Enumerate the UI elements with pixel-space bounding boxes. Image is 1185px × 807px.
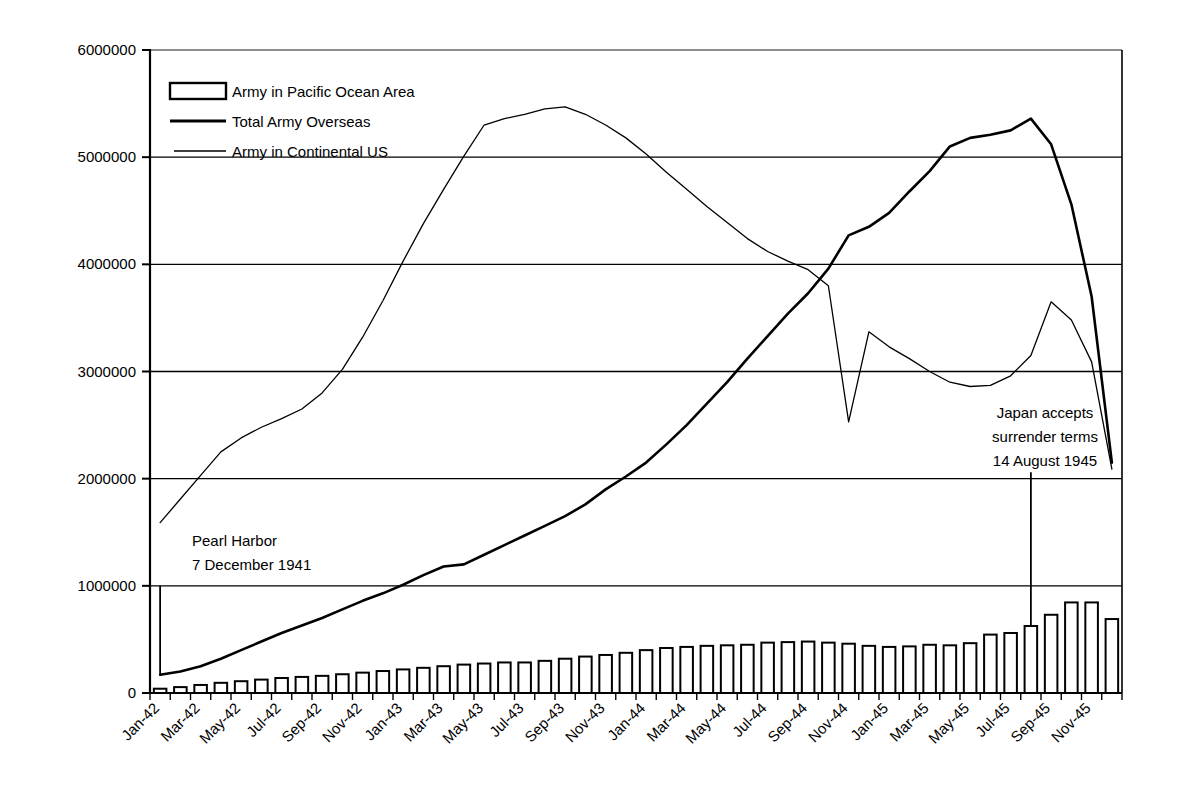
legend-item-label: Army in Pacific Ocean Area xyxy=(232,83,415,100)
bar xyxy=(923,645,936,693)
bar xyxy=(397,669,410,693)
bar xyxy=(640,650,653,693)
bar xyxy=(964,643,977,693)
y-tick-label: 3000000 xyxy=(78,363,136,380)
bar xyxy=(701,646,714,693)
bar xyxy=(539,661,552,693)
bar xyxy=(761,643,774,693)
bar xyxy=(559,659,572,693)
bar xyxy=(579,657,592,693)
bar xyxy=(660,648,673,693)
bar xyxy=(863,646,876,693)
bar xyxy=(903,646,916,693)
bar xyxy=(336,674,349,693)
bar xyxy=(194,685,207,693)
bar xyxy=(1045,615,1058,693)
bar xyxy=(680,647,693,693)
bar xyxy=(498,662,511,693)
bar xyxy=(417,668,430,693)
bar xyxy=(377,671,390,693)
bar xyxy=(1085,602,1098,693)
bar xyxy=(822,643,835,693)
legend-swatch-bar xyxy=(170,83,226,99)
bar xyxy=(802,642,815,693)
bar xyxy=(599,655,612,693)
bar xyxy=(235,681,248,693)
bar xyxy=(1004,633,1017,693)
legend-item-label: Army in Continental US xyxy=(232,143,388,160)
y-tick-label: 2000000 xyxy=(78,470,136,487)
bar xyxy=(883,647,896,693)
chart-container: 0100000020000003000000400000050000006000… xyxy=(0,0,1185,807)
y-tick-label: 0 xyxy=(128,684,136,701)
bar xyxy=(1025,626,1038,693)
japan-surrender-annotation-line: Japan accepts xyxy=(997,404,1094,421)
bar xyxy=(741,645,754,693)
bar xyxy=(782,642,795,693)
japan-surrender-annotation-line: 14 August 1945 xyxy=(993,452,1097,469)
bar xyxy=(296,677,309,693)
bar xyxy=(356,673,369,693)
y-tick-label: 4000000 xyxy=(78,255,136,272)
bar xyxy=(842,644,855,693)
bar xyxy=(316,676,329,693)
bar xyxy=(1106,619,1119,693)
y-tick-label: 1000000 xyxy=(78,577,136,594)
japan-surrender-annotation-line: surrender terms xyxy=(992,428,1098,445)
legend-item-label: Total Army Overseas xyxy=(232,113,370,130)
wwii-army-strength-chart: 0100000020000003000000400000050000006000… xyxy=(0,0,1185,807)
bar xyxy=(984,635,997,693)
bar xyxy=(518,662,531,693)
bar xyxy=(478,664,491,693)
y-tick-label: 5000000 xyxy=(78,148,136,165)
bar xyxy=(437,666,450,693)
bar xyxy=(275,678,288,693)
bar xyxy=(255,680,268,693)
bar xyxy=(721,645,734,693)
y-tick-label: 6000000 xyxy=(78,41,136,58)
bar xyxy=(215,683,228,693)
bar xyxy=(1065,602,1078,693)
bar xyxy=(620,653,633,693)
bar xyxy=(944,645,957,693)
bar xyxy=(458,665,471,693)
pearl-harbor-annotation-line: 7 December 1941 xyxy=(192,556,311,573)
pearl-harbor-annotation-line: Pearl Harbor xyxy=(192,532,277,549)
